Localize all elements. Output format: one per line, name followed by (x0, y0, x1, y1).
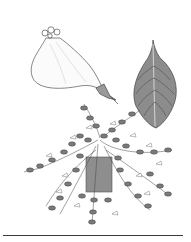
pot (86, 157, 112, 192)
leaf-detail (134, 40, 176, 128)
horizontal-rule (3, 235, 183, 236)
illustration (0, 0, 191, 242)
flower-detail (31, 27, 118, 104)
